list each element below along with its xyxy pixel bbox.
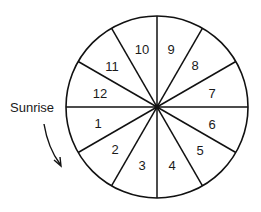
segment-label: 7 [208,86,215,101]
segment-label: 8 [191,58,198,73]
segment-label: 9 [167,42,174,57]
segment-label: 1 [94,116,101,131]
center-hub [155,105,160,110]
segment-label: 11 [105,59,119,74]
sunrise-label: Sunrise [10,100,54,115]
segment-label: 3 [138,158,145,173]
sundial-diagram: 1 2 3 4 5 6 7 8 9 10 11 12 Sunrise [0,0,261,212]
segment-label: 6 [208,117,215,132]
segment-label: 4 [168,158,175,173]
segment-label: 10 [135,42,149,57]
clockwise-arrow-icon [44,124,60,164]
segment-label: 2 [111,142,118,157]
segment-label: 12 [93,86,107,101]
segment-label: 5 [196,143,203,158]
